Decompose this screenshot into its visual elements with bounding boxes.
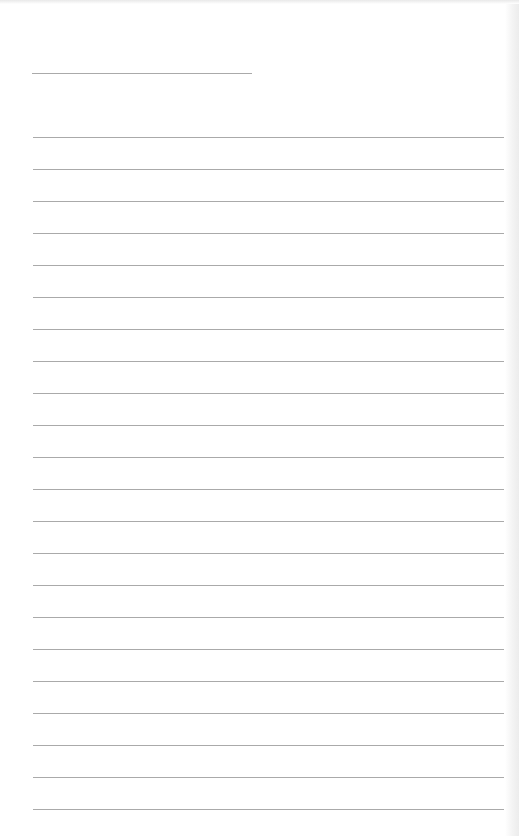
ruled-line	[33, 457, 504, 458]
ruled-line	[33, 681, 504, 682]
page-top-edge	[0, 0, 519, 4]
ruled-line	[33, 585, 504, 586]
ruled-line	[33, 393, 504, 394]
ruled-line	[33, 329, 504, 330]
ruled-line	[33, 809, 504, 810]
ruled-line	[33, 553, 504, 554]
ruled-line	[33, 361, 504, 362]
ruled-line	[33, 265, 504, 266]
ruled-line	[33, 489, 504, 490]
ruled-line	[33, 297, 504, 298]
ruled-line	[33, 777, 504, 778]
ruled-line	[33, 649, 504, 650]
header-name-line	[32, 73, 252, 74]
ruled-line	[33, 169, 504, 170]
ruled-line	[33, 745, 504, 746]
ruled-line	[33, 713, 504, 714]
ruled-line	[33, 137, 504, 138]
lined-paper-page	[0, 0, 519, 836]
ruled-line	[33, 521, 504, 522]
ruled-line	[33, 425, 504, 426]
ruled-line	[33, 201, 504, 202]
ruled-line	[33, 233, 504, 234]
ruled-line	[33, 617, 504, 618]
